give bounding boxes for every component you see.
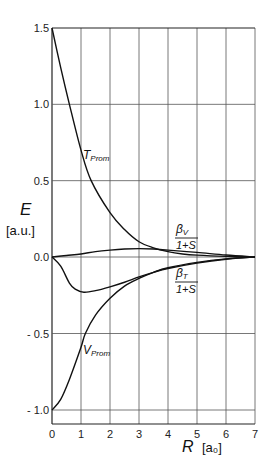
energy-vs-distance-chart: 012345671.51.00.50.0- 0.5- 1.0 TPromVPro… <box>0 0 274 476</box>
y-tick-label: - 1.0 <box>27 404 49 416</box>
x-tick-label: 6 <box>223 428 229 440</box>
fraction-denominator: 1+S <box>176 239 197 251</box>
x-tick-label: 3 <box>136 428 142 440</box>
x-axis-label-unit: [a₀] <box>202 440 222 455</box>
y-tick-label: 0.5 <box>34 175 49 187</box>
label-v-prom: VProm <box>83 343 110 358</box>
x-tick-label: 0 <box>49 428 55 440</box>
x-tick-label: 7 <box>252 428 258 440</box>
y-axis-label-unit: [a.u.] <box>6 223 35 238</box>
x-tick-label: 2 <box>107 428 113 440</box>
x-tick-label: 4 <box>165 428 171 440</box>
curve-beta-t-1-s- <box>52 257 255 292</box>
label-t-prom: TProm <box>83 148 110 163</box>
y-tick-label: 0.0 <box>34 251 49 263</box>
y-tick-label: - 0.5 <box>27 328 49 340</box>
curve-labels: TPromVPromβV1+SβT1+S <box>83 148 198 358</box>
fraction-denominator: 1+S <box>176 283 197 295</box>
y-axis-label-symbol: E <box>20 200 32 219</box>
y-tick-label: 1.5 <box>34 22 49 34</box>
label-beta-t: βT <box>175 266 189 281</box>
grid-lines <box>52 28 255 424</box>
x-tick-label: 5 <box>194 428 200 440</box>
x-axis-label-symbol: R <box>182 438 194 455</box>
x-tick-label: 1 <box>78 428 84 440</box>
y-tick-label: 1.0 <box>34 98 49 110</box>
tick-labels: 012345671.51.00.50.0- 0.5- 1.0 <box>27 22 258 440</box>
label-beta-v: βV <box>175 222 189 237</box>
curve-t-prom <box>52 28 255 257</box>
